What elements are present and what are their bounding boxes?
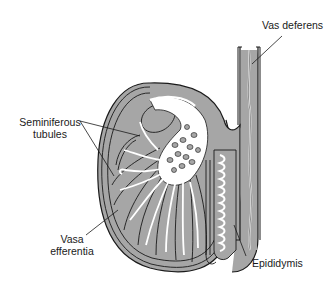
label-seminiferous-line1: Seminiferous bbox=[17, 116, 83, 128]
label-seminiferous-line2: tubules bbox=[17, 128, 83, 140]
label-vasa-efferentia: Vasa efferentia bbox=[48, 233, 96, 257]
label-vasa-line1: Vasa bbox=[48, 233, 96, 245]
label-epididymis: Epididymis bbox=[252, 257, 303, 269]
label-vasa-line2: efferentia bbox=[48, 245, 96, 257]
label-vas-deferens: Vas deferens bbox=[262, 19, 323, 31]
label-seminiferous-tubules: Seminiferous tubules bbox=[17, 116, 83, 140]
testis-diagram: Vas deferens Seminiferous tubules Vasa e… bbox=[0, 0, 331, 293]
